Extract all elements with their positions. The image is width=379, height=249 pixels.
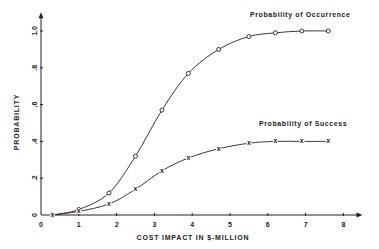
x-marker-icon: x [160, 167, 164, 174]
circle-marker-icon [247, 35, 251, 39]
circle-marker-icon [300, 29, 304, 33]
y-tick-label: .6 [31, 102, 38, 108]
x-tick-label: 2 [115, 221, 119, 228]
x-marker-icon: x [273, 137, 277, 144]
x-tick-label: 6 [266, 221, 270, 228]
x-marker-icon: x [300, 137, 304, 144]
series-success: xxxxxxxxxxx [50, 137, 331, 218]
circle-marker-icon [160, 108, 164, 112]
circle-marker-icon [273, 31, 277, 35]
y-axis-label: PROBABILITY [13, 94, 20, 150]
y-tick-label: .4 [31, 138, 38, 144]
x-marker-icon: x [134, 185, 138, 192]
tick-labels: 0123456780.2.4.6.81.0 [31, 26, 345, 228]
x-marker-icon: x [186, 154, 190, 161]
x-tick-label: 3 [152, 221, 156, 228]
probability-chart: 0123456780.2.4.6.81.0 xxxxxxxxxxx COST I… [0, 0, 379, 249]
x-tick-label: 5 [228, 221, 232, 228]
y-axis-arrow-icon [39, 12, 44, 18]
y-tick-label: .8 [31, 65, 38, 71]
x-marker-icon: x [217, 145, 221, 152]
series-label-occurrence: Probability of Occurrence [250, 11, 351, 19]
axes [39, 12, 363, 217]
x-marker-icon: x [326, 137, 330, 144]
x-marker-icon: x [107, 200, 111, 207]
x-tick-label: 0 [39, 221, 43, 228]
circle-marker-icon [134, 154, 138, 158]
x-marker-icon: x [77, 207, 81, 214]
y-tick-label: 1.0 [31, 26, 38, 36]
circle-marker-icon [326, 29, 330, 33]
series-line [52, 141, 328, 215]
x-axis-arrow-icon [357, 213, 363, 218]
x-marker-icon: x [247, 139, 251, 146]
x-marker-icon: x [50, 211, 54, 218]
series-label-success: Probability of Success [259, 120, 347, 128]
circle-marker-icon [186, 71, 190, 75]
x-tick-label: 7 [304, 221, 308, 228]
x-axis-label: COST IMPACT IN $-MILLION [137, 234, 250, 242]
x-tick-label: 1 [77, 221, 81, 228]
x-tick-label: 4 [190, 221, 194, 228]
y-tick-label: .2 [31, 175, 38, 181]
circle-marker-icon [107, 191, 111, 195]
y-tick-label: 0 [31, 213, 38, 217]
circle-marker-icon [217, 47, 221, 51]
x-tick-label: 8 [341, 221, 345, 228]
